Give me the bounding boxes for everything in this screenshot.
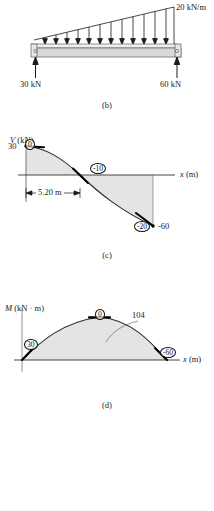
shear-diagram-panel: V (kN) x (m) 30 -60 0 -10 -20 5.20 m (c) [0,130,214,290]
caption-d: (d) [0,400,214,410]
moment-slope-end-badge: -60 [160,347,176,358]
shear-end-value-label: -60 [158,222,169,231]
beam-analysis-figure: 20 kN/m 30 kN 60 kN (b) [0,0,214,511]
moment-y-axis-var: M [5,303,12,313]
beam-body [31,44,181,57]
shear-x-axis-label: x (m) [180,170,198,179]
distributed-load-label: 20 kN/m [176,3,206,12]
moment-x-axis-label: x (m) [183,355,201,364]
shear-end-point [151,224,154,227]
caption-b: (b) [0,100,214,110]
reaction-arrows [33,57,180,78]
moment-area [22,317,166,360]
reaction-right-label: 60 kN [160,80,181,89]
shear-diagram-svg [0,130,214,265]
moment-peak-value-label: 104 [132,311,145,320]
beam-diagram-panel: 20 kN/m 30 kN 60 kN (b) [0,0,214,130]
shear-x-axis-var: x [180,169,184,179]
distributed-load-arrows [43,9,169,45]
moment-y-axis-unit: (kN · m) [14,303,44,313]
shear-positive-area [26,146,80,175]
shear-dimension-label: 5.20 m [36,188,64,197]
caption-c: (c) [0,250,214,260]
shear-x-axis-unit: (m) [186,169,198,179]
load-envelope-line [34,7,174,40]
moment-x-axis-var: x [183,354,187,364]
shear-slope-start-badge: 0 [25,139,35,150]
moment-slope-peak-badge: 0 [95,309,105,320]
moment-y-axis-label: M (kN · m) [5,304,44,313]
shear-slope-mid-badge: -10 [90,163,106,174]
shear-slope-end-badge: -20 [134,221,150,232]
shear-start-value-label: 30 [8,142,17,151]
reaction-left-label: 30 kN [20,80,41,89]
moment-x-axis-unit: (m) [189,354,201,364]
moment-slope-start-badge: 30 [24,339,38,350]
moment-diagram-panel: M (kN · m) x (m) 30 0 -60 104 (d) [0,290,214,430]
